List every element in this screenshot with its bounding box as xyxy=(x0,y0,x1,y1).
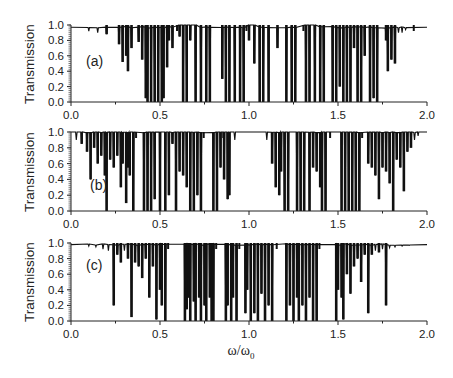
transmission-curve xyxy=(71,244,427,321)
band-edge xyxy=(176,25,178,31)
x-axis-label-main: ω/ω xyxy=(228,343,250,358)
transmission-curve xyxy=(71,132,427,211)
x-tick-label: 0.5 xyxy=(152,218,168,230)
y-tick-label: 1.0 xyxy=(48,237,64,249)
band-edge xyxy=(245,25,247,31)
y-tick-label: 0.4 xyxy=(48,173,65,185)
y-tick-label: 0.8 xyxy=(48,253,64,265)
band-edge xyxy=(329,132,331,138)
y-tick-label: 0.6 xyxy=(48,268,64,280)
panel-label: (a) xyxy=(86,53,103,69)
band-edge xyxy=(215,243,217,249)
x-tick-label: 0.0 xyxy=(63,109,79,121)
y-tick-label: 1.0 xyxy=(48,126,64,138)
x-tick-label: 2.0 xyxy=(419,109,435,121)
axes: 0.00.51.01.52.00.00.20.40.60.81.0 xyxy=(48,237,435,340)
x-tick-label: 2.0 xyxy=(419,218,435,230)
y-axis-label-a: Transmission xyxy=(22,24,37,104)
figure: 0.00.51.01.52.00.00.20.40.60.81.0(a) 0.0… xyxy=(0,0,453,378)
y-tick-label: 1.0 xyxy=(48,19,64,31)
y-tick-label: 0.0 xyxy=(48,315,64,327)
y-tick-label: 0.2 xyxy=(48,299,64,311)
y-tick-label: 0.0 xyxy=(48,205,64,217)
x-tick-label: 0.0 xyxy=(63,218,79,230)
x-tick-label: 1.0 xyxy=(241,328,257,340)
band-edge xyxy=(238,243,240,249)
x-tick-label: 0.0 xyxy=(63,328,79,340)
x-tick-label: 0.5 xyxy=(152,109,168,121)
band-edge xyxy=(276,243,278,249)
panel-c: 0.00.51.01.52.00.00.20.40.60.81.0(c) xyxy=(48,237,435,340)
panel-label: (c) xyxy=(86,257,102,273)
band-edge xyxy=(222,132,224,138)
y-tick-label: 0.0 xyxy=(48,96,64,108)
x-tick-label: 1.5 xyxy=(330,218,346,230)
band-edge xyxy=(203,132,205,138)
y-tick-label: 0.2 xyxy=(48,189,64,201)
band-edge xyxy=(413,25,415,31)
band-edge xyxy=(167,243,169,249)
panel-a: 0.00.51.01.52.00.00.20.40.60.81.0(a) xyxy=(48,19,435,121)
x-tick-label: 1.0 xyxy=(241,218,257,230)
panel-b: 0.00.51.01.52.00.00.20.40.60.81.0(b) xyxy=(48,126,435,230)
band-edge xyxy=(318,243,320,249)
y-tick-label: 0.8 xyxy=(48,34,64,46)
band-edge xyxy=(135,132,137,138)
x-tick-label: 1.5 xyxy=(330,109,346,121)
y-tick-label: 0.8 xyxy=(48,142,64,154)
x-tick-label: 1.0 xyxy=(241,109,257,121)
y-tick-label: 0.4 xyxy=(48,65,65,77)
y-axis-label-c: Transmission xyxy=(22,242,37,322)
y-tick-label: 0.4 xyxy=(48,284,65,296)
x-axis-label-subscript: 0 xyxy=(250,351,255,361)
band-edge xyxy=(302,25,304,31)
y-tick-label: 0.2 xyxy=(48,81,64,93)
y-tick-label: 0.6 xyxy=(48,50,64,62)
x-tick-label: 1.5 xyxy=(330,328,346,340)
x-tick-label: 2.0 xyxy=(419,328,435,340)
panel-label: (b) xyxy=(90,177,107,193)
y-tick-label: 0.6 xyxy=(48,158,64,170)
y-axis-label-b: Transmission xyxy=(22,132,37,212)
band-edge xyxy=(361,132,363,138)
x-axis-label: ω/ω0 xyxy=(228,343,255,361)
x-tick-label: 0.5 xyxy=(152,328,168,340)
